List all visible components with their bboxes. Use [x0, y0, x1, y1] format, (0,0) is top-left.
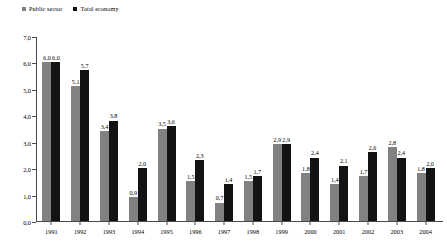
x-axis-tick-label: 1996 — [189, 228, 202, 235]
x-axis-tick-label: 1993 — [103, 228, 116, 235]
bar-value-label: 3,4 — [101, 124, 109, 130]
x-axis-tick — [396, 221, 397, 225]
bar-value-label: 3,5 — [158, 121, 166, 127]
x-axis-tick-label: 1992 — [74, 228, 87, 235]
y-axis-tick — [32, 90, 36, 91]
x-axis-tick-label: 1995 — [160, 228, 173, 235]
bar-value-label: 1,4 — [331, 177, 339, 183]
x-axis-tick — [281, 221, 282, 225]
legend-label-public-sector: Public sector — [29, 6, 62, 12]
bar-1998-total-economy: 1,7 — [253, 176, 262, 221]
y-axis-tick-label: 6,0 — [23, 60, 31, 67]
bar-2004-public-sector: 1,8 — [417, 173, 426, 221]
bar-value-label: 2,8 — [388, 140, 396, 146]
legend-label-total-economy: Total economy — [80, 6, 118, 12]
bar-value-label: 1,5 — [245, 174, 253, 180]
bar-chart: Public sector Total economy 0,01,02,03,0… — [0, 0, 447, 249]
y-axis-tick-label: 3,0 — [23, 139, 31, 146]
y-axis-tick-label: 1,0 — [23, 192, 31, 199]
x-axis-tick — [108, 221, 109, 225]
x-axis-tick-label: 1997 — [218, 228, 231, 235]
x-axis-tick — [339, 221, 340, 225]
bar-2001-total-economy: 2,1 — [339, 166, 348, 222]
y-axis-tick — [32, 37, 36, 38]
chart-legend: Public sector Total economy — [22, 6, 119, 12]
bar-1992-public-sector: 5,1 — [71, 86, 80, 221]
legend-item-public-sector: Public sector — [22, 6, 62, 12]
x-axis-tick-label: 2002 — [362, 228, 375, 235]
x-axis-tick — [367, 221, 368, 225]
bar-group: 1,52,31996 — [181, 37, 210, 221]
bar-value-label: 2,4 — [311, 150, 319, 156]
x-axis-tick-label: 2001 — [333, 228, 346, 235]
x-axis-tick — [51, 221, 52, 225]
bar-value-label: 2,9 — [282, 137, 290, 143]
bar-value-label: 3,8 — [110, 113, 118, 119]
bar-value-label: 2,0 — [138, 161, 146, 167]
plot-area: 0,01,02,03,04,05,06,07,0 6,06,019915,15,… — [36, 37, 440, 222]
bar-1992-total-economy: 5,7 — [80, 70, 89, 221]
legend-item-total-economy: Total economy — [73, 6, 118, 12]
y-axis-tick — [32, 222, 36, 223]
y-axis-tick — [32, 143, 36, 144]
x-axis-tick-label: 2003 — [390, 228, 403, 235]
bar-1993-public-sector: 3,4 — [100, 131, 109, 221]
x-axis-tick — [224, 221, 225, 225]
x-axis-tick-label: 1998 — [247, 228, 260, 235]
bar-group: 5,15,71992 — [66, 37, 95, 221]
bar-value-label: 0,9 — [129, 190, 137, 196]
bar-value-label: 2,9 — [273, 137, 281, 143]
y-axis-tick — [32, 169, 36, 170]
bar-2000-public-sector: 1,8 — [301, 173, 310, 221]
bar-1991-total-economy: 6,0 — [51, 62, 60, 221]
bar-value-label: 3,6 — [167, 119, 175, 125]
bar-1997-public-sector: 0,7 — [215, 203, 224, 222]
legend-swatch-icon-public-sector — [22, 7, 26, 11]
bar-value-label: 2,1 — [340, 158, 348, 164]
bar-1999-public-sector: 2,9 — [273, 144, 282, 221]
bar-value-label: 6,0 — [43, 55, 51, 61]
y-axis-tick-label: 4,0 — [23, 113, 31, 120]
bar-value-label: 5,1 — [72, 79, 80, 85]
x-axis-tick — [310, 221, 311, 225]
bar-value-label: 1,5 — [187, 174, 195, 180]
y-axis-tick-label: 0,0 — [23, 219, 31, 226]
bar-2003-total-economy: 2,4 — [397, 158, 406, 221]
bar-group: 1,42,12001 — [325, 37, 354, 221]
bar-group: 3,43,81993 — [95, 37, 124, 221]
bar-value-label: 1,7 — [360, 169, 368, 175]
x-axis-tick — [252, 221, 253, 225]
x-axis-tick-label: 1991 — [45, 228, 58, 235]
y-axis-tick — [32, 63, 36, 64]
bar-groups: 6,06,019915,15,719923,43,819930,92,01994… — [37, 37, 440, 221]
bar-1991-public-sector: 6,0 — [42, 62, 51, 221]
bar-value-label: 5,7 — [81, 63, 89, 69]
bar-group: 2,82,42003 — [382, 37, 411, 221]
bar-value-label: 6,0 — [52, 55, 60, 61]
y-axis-tick — [32, 196, 36, 197]
x-axis-tick — [80, 221, 81, 225]
x-axis-tick-label: 2000 — [304, 228, 317, 235]
x-axis-tick — [195, 221, 196, 225]
x-axis-tick-label: 1994 — [131, 228, 144, 235]
bar-2002-public-sector: 1,7 — [359, 176, 368, 221]
y-axis-tick-label: 2,0 — [23, 166, 31, 173]
bar-1996-public-sector: 1,5 — [186, 181, 195, 221]
bar-group: 6,06,01991 — [37, 37, 66, 221]
bar-group: 1,82,42000 — [296, 37, 325, 221]
bar-1995-total-economy: 3,6 — [167, 126, 176, 221]
x-axis-tick — [137, 221, 138, 225]
bar-group: 1,82,02004 — [411, 37, 440, 221]
x-axis-tick — [425, 221, 426, 225]
x-axis — [36, 221, 443, 222]
bar-value-label: 2,0 — [426, 161, 434, 167]
bar-1995-public-sector: 3,5 — [158, 129, 167, 222]
bar-2002-total-economy: 2,6 — [368, 152, 377, 221]
x-axis-tick-label: 1999 — [275, 228, 288, 235]
bar-group: 3,53,61995 — [152, 37, 181, 221]
y-axis-tick-label: 7,0 — [23, 34, 31, 41]
bar-group: 0,92,01994 — [123, 37, 152, 221]
bar-1994-public-sector: 0,9 — [129, 197, 138, 221]
bar-group: 1,72,62002 — [354, 37, 383, 221]
bar-1993-total-economy: 3,8 — [109, 121, 118, 221]
